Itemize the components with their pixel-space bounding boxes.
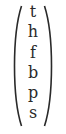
right-parenthesis-icon (43, 5, 53, 127)
vector-entry: f (22, 43, 44, 63)
vector-entry: s (22, 103, 44, 123)
vector-entry: p (22, 83, 44, 103)
column-vector: t h f b p s (0, 0, 66, 134)
vector-entry: h (22, 22, 44, 42)
vector-entries: t h f b p s (22, 2, 44, 124)
vector-entry: t (22, 2, 44, 22)
vector-entry: b (22, 63, 44, 83)
